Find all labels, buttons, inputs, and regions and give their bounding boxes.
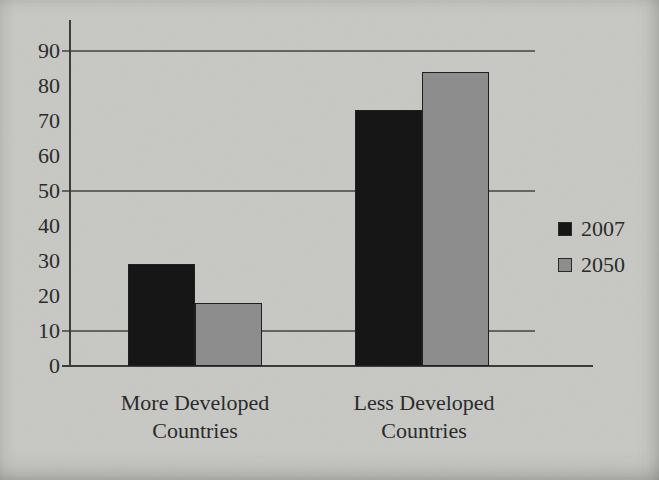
bar-chart-figure: 0102030405060708090 More Developed Count… bbox=[0, 0, 659, 480]
y-tick-label-30: 30 bbox=[10, 248, 60, 274]
legend-item-2007: 2007 bbox=[558, 216, 625, 242]
category-label-more-developed-countries: More Developed Countries bbox=[100, 389, 290, 445]
y-tick-label-0: 0 bbox=[10, 353, 60, 379]
category-label-less-developed-countries: Less Developed Countries bbox=[329, 389, 519, 445]
legend-swatch-2007 bbox=[558, 222, 572, 236]
y-tick-label-40: 40 bbox=[10, 213, 60, 239]
bar-2007-group-1 bbox=[128, 264, 195, 366]
legend-label-2007: 2007 bbox=[581, 216, 625, 242]
y-tick-label-10: 10 bbox=[10, 318, 60, 344]
y-tick-label-50: 50 bbox=[10, 178, 60, 204]
y-tick-label-70: 70 bbox=[10, 108, 60, 134]
gridline-90 bbox=[62, 50, 535, 52]
legend: 2007 2050 bbox=[558, 216, 625, 288]
bar-2050-group-2 bbox=[422, 72, 489, 366]
y-axis-line bbox=[69, 20, 71, 367]
legend-label-2050: 2050 bbox=[581, 252, 625, 278]
y-tick-label-20: 20 bbox=[10, 283, 60, 309]
y-tick-label-60: 60 bbox=[10, 143, 60, 169]
bar-2007-group-2 bbox=[355, 110, 422, 366]
legend-item-2050: 2050 bbox=[558, 252, 625, 278]
y-tick-label-90: 90 bbox=[10, 38, 60, 64]
bar-2050-group-1 bbox=[195, 303, 262, 366]
y-tick-label-80: 80 bbox=[10, 73, 60, 99]
legend-swatch-2050 bbox=[558, 258, 572, 272]
